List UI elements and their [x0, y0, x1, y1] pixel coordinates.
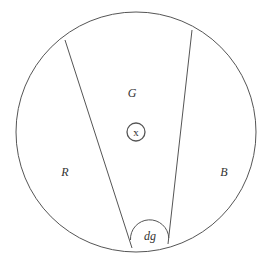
center-point-label: x	[133, 126, 139, 138]
left-divider-line	[65, 40, 132, 248]
right-divider-line	[168, 30, 192, 244]
region-label-b: B	[220, 165, 228, 179]
dg-label: dg	[144, 229, 156, 243]
region-label-g: G	[128, 86, 137, 100]
region-label-r: R	[60, 165, 69, 179]
diagram-canvas: x G R B dg	[0, 0, 265, 259]
region-diagram: x G R B dg	[0, 0, 265, 259]
